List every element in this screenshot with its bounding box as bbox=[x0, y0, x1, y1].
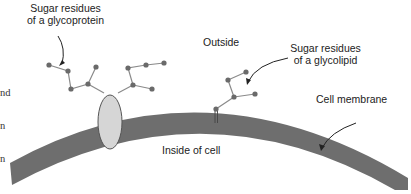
glycolipid-sugar-residues bbox=[216, 72, 255, 109]
membrane-protein bbox=[98, 95, 122, 149]
glycolipid-label: Sugar residues of a glycolipid bbox=[283, 42, 368, 66]
glycolipid-label-line1: Sugar residues bbox=[283, 42, 368, 54]
cell-membrane-label: Cell membrane bbox=[316, 93, 387, 105]
cutoff-text-line2: n bbox=[0, 120, 11, 131]
glycoprotein-label-line2: of a glycoprotein bbox=[18, 14, 113, 26]
inside-of-cell-label: Inside of cell bbox=[162, 144, 220, 156]
glycoprotein-sugar-residues bbox=[49, 63, 164, 93]
glycoprotein-label-line1: Sugar residues bbox=[18, 2, 113, 14]
outside-label: Outside bbox=[203, 36, 239, 48]
glycolipid-sugar-nodes bbox=[213, 69, 257, 111]
glycoprotein-sugar-nodes bbox=[46, 60, 166, 91]
cutoff-text-line3: n bbox=[0, 153, 11, 164]
cutoff-text-line1: nd bbox=[0, 87, 11, 98]
cutoff-side-text: nd n n bbox=[0, 65, 11, 175]
glycoprotein-label: Sugar residues of a glycoprotein bbox=[18, 2, 113, 26]
glycolipid-label-line2: of a glycolipid bbox=[283, 54, 368, 66]
